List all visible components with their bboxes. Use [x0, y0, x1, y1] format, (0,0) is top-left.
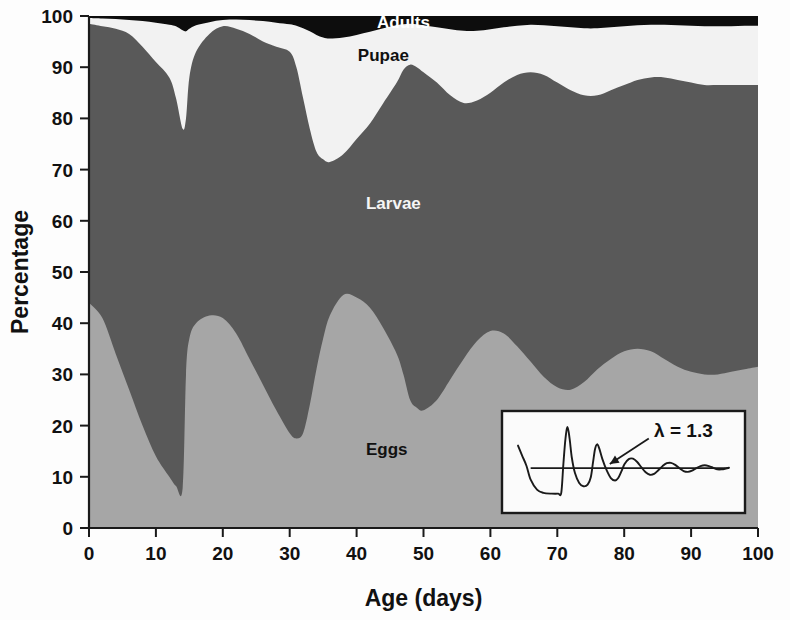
pupae-label: Pupae	[358, 46, 409, 65]
x-tick-label: 100	[742, 543, 774, 564]
y-tick-label: 20	[52, 416, 73, 437]
x-tick-label: 60	[480, 543, 501, 564]
x-tick-label: 50	[413, 543, 434, 564]
x-tick-label: 70	[547, 543, 568, 564]
y-axis-ticks	[80, 16, 89, 528]
eggs-label: Eggs	[366, 440, 408, 459]
y-axis-title: Percentage	[7, 210, 33, 334]
x-tick-label: 10	[145, 543, 166, 564]
x-axis-tick-labels: 0102030405060708090100	[84, 543, 774, 564]
y-tick-label: 70	[52, 160, 73, 181]
y-axis-tick-labels: 0102030405060708090100	[41, 6, 73, 539]
inset-plot: λ = 1.3	[502, 411, 745, 513]
x-tick-label: 30	[279, 543, 300, 564]
x-tick-label: 40	[346, 543, 367, 564]
y-tick-label: 0	[62, 518, 73, 539]
y-tick-label: 10	[52, 467, 73, 488]
adults-label: Adults	[377, 13, 430, 32]
y-tick-label: 100	[41, 6, 73, 27]
y-tick-label: 30	[52, 364, 73, 385]
x-tick-label: 0	[84, 543, 95, 564]
stacked-area-chart: 0102030405060708090100 01020304050607080…	[0, 0, 790, 620]
larvae-label: Larvae	[366, 194, 421, 213]
x-axis-title: Age (days)	[365, 585, 483, 611]
x-axis-ticks	[89, 528, 758, 537]
inset-lambda-label: λ = 1.3	[654, 420, 713, 441]
y-tick-label: 40	[52, 313, 73, 334]
y-tick-label: 80	[52, 108, 73, 129]
x-tick-label: 90	[681, 543, 702, 564]
x-tick-label: 80	[614, 543, 635, 564]
chart-figure: 0102030405060708090100 01020304050607080…	[0, 0, 790, 620]
x-tick-label: 20	[212, 543, 233, 564]
y-tick-label: 50	[52, 262, 73, 283]
y-tick-label: 60	[52, 211, 73, 232]
y-tick-label: 90	[52, 57, 73, 78]
